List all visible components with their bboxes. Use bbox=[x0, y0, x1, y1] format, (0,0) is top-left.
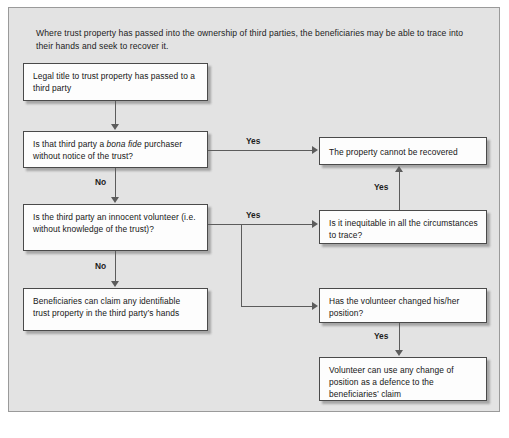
arrowhead-volunteer-no bbox=[111, 281, 119, 287]
arrowhead-bonafide-yes bbox=[312, 146, 318, 154]
edge-volunteer-yes-to-inequitable bbox=[208, 224, 313, 225]
edge-start-to-bonafide bbox=[115, 101, 116, 125]
edge-bonafide-no bbox=[115, 168, 116, 198]
edge-label-volunteer-no: No bbox=[95, 261, 106, 271]
edge-volunteer-no bbox=[115, 251, 116, 282]
flowchart-figure: Where trust property has passed into the… bbox=[8, 7, 500, 412]
arrowhead-volunteer-yes-to-changed-position bbox=[312, 302, 318, 310]
figure-caption: Where trust property has passed into the… bbox=[36, 27, 466, 53]
node-legal-title: Legal title to trust property has passed… bbox=[23, 63, 208, 101]
edge-label-bonafide-yes: Yes bbox=[246, 136, 260, 146]
node-bona-fide-emphasis: bona fide bbox=[107, 139, 142, 149]
arrowhead-bonafide-no bbox=[111, 197, 119, 203]
edge-changed-position-yes bbox=[399, 323, 400, 351]
node-bona-fide-text-1: Is that third party a bbox=[33, 139, 107, 149]
edge-label-bonafide-no: No bbox=[95, 177, 106, 187]
edge-volunteer-yes-branch-down bbox=[241, 224, 242, 306]
edge-label-changed-position-yes: Yes bbox=[374, 331, 388, 341]
node-change-of-position-defence: Volunteer can use any change of position… bbox=[319, 357, 487, 401]
arrowhead-changed-position-yes bbox=[395, 350, 403, 356]
arrowhead-volunteer-yes-to-inequitable bbox=[312, 220, 318, 228]
edge-label-volunteer-yes: Yes bbox=[246, 210, 260, 220]
node-innocent-volunteer: Is the third party an innocent volunteer… bbox=[23, 204, 208, 251]
edge-label-inequitable-yes: Yes bbox=[374, 182, 388, 192]
edge-bonafide-yes bbox=[208, 150, 313, 151]
edge-volunteer-yes-branch-right bbox=[241, 306, 313, 307]
node-property-cannot-be-recovered: The property cannot be recovered bbox=[319, 137, 487, 165]
arrowhead-inequitable-yes bbox=[395, 166, 403, 172]
node-volunteer-changed-position: Has the volunteer changed his/her positi… bbox=[319, 288, 487, 323]
node-bona-fide-purchaser: Is that third party a bona fide purchase… bbox=[23, 131, 208, 168]
node-beneficiaries-claim: Beneficiaries can claim any identifiable… bbox=[23, 288, 208, 331]
node-inequitable-to-trace: Is it inequitable in all the circumstanc… bbox=[319, 210, 487, 244]
edge-inequitable-yes bbox=[399, 172, 400, 210]
arrowhead-start-to-bonafide bbox=[111, 124, 119, 130]
